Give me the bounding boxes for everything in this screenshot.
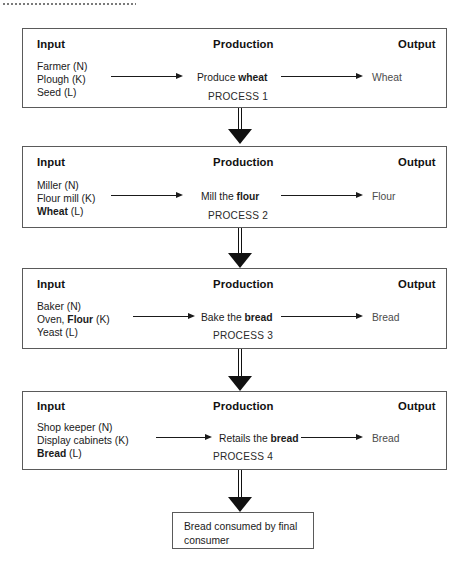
input-item: Oven, Flour (K) <box>37 313 110 326</box>
arrow-input-to-production-2 <box>111 192 183 200</box>
input-item: Miller (N) <box>37 179 95 192</box>
diagram-canvas: Input Production Output Farmer (N) Ploug… <box>0 0 468 572</box>
input-item: Wheat (L) <box>37 205 95 218</box>
input-item-rest: (L) <box>68 206 83 217</box>
input-item-pre: Oven, <box>37 314 67 325</box>
input-item-bold: Flour <box>67 314 93 325</box>
final-consumption-box: Bread consumed by final consumer <box>172 512 314 549</box>
column-header-input: Input <box>37 38 65 50</box>
input-list-4: Shop keeper (N) Display cabinets (K) Bre… <box>37 421 129 461</box>
input-item-rest: (L) <box>66 448 81 459</box>
final-consumption-text: Bread consumed by final consumer <box>184 520 306 548</box>
column-header-output: Output <box>398 38 436 50</box>
production-text-bold: wheat <box>238 72 267 83</box>
arrow-production-to-output-3 <box>281 313 363 321</box>
input-list-3: Baker (N) Oven, Flour (K) Yeast (L) <box>37 300 110 340</box>
column-header-production: Production <box>213 38 274 50</box>
connector-4-to-final <box>228 470 252 512</box>
arrow-input-to-production-3 <box>133 313 195 321</box>
production-text-bold: bread <box>245 312 273 323</box>
production-text: Retails the <box>219 433 271 444</box>
column-header-input: Input <box>37 278 65 290</box>
process-box-3: Input Production Output Baker (N) Oven, … <box>22 268 447 349</box>
input-item: Plough (K) <box>37 73 87 86</box>
arrow-input-to-production-1 <box>111 73 183 81</box>
input-item: Baker (N) <box>37 300 110 313</box>
production-text: Mill the <box>201 191 236 202</box>
process-tag-4: PROCESS 4 <box>213 451 273 462</box>
input-list-1: Farmer (N) Plough (K) Seed (L) <box>37 60 87 100</box>
input-item: Shop keeper (N) <box>37 421 129 434</box>
arrow-production-to-output-2 <box>281 192 363 200</box>
process-box-2: Input Production Output Miller (N) Flour… <box>22 146 447 228</box>
production-text: Bake the <box>201 312 245 323</box>
output-label-1: Wheat <box>372 72 402 83</box>
arrow-input-to-production-4 <box>156 434 212 442</box>
process-tag-2: PROCESS 2 <box>208 210 268 221</box>
input-item-bold: Bread <box>37 448 66 459</box>
arrow-production-to-output-4 <box>301 434 363 442</box>
input-item: Farmer (N) <box>37 60 87 73</box>
production-label-3: Bake the bread <box>201 312 273 323</box>
column-header-production: Production <box>213 156 274 168</box>
input-item: Display cabinets (K) <box>37 434 129 447</box>
column-header-production: Production <box>213 278 274 290</box>
column-header-production: Production <box>213 400 274 412</box>
process-tag-3: PROCESS 3 <box>213 330 273 341</box>
input-item: Yeast (L) <box>37 326 110 339</box>
column-header-output: Output <box>398 278 436 290</box>
production-text-bold: bread <box>271 433 299 444</box>
output-label-4: Bread <box>372 433 399 444</box>
connector-3-to-4 <box>228 349 252 391</box>
column-header-input: Input <box>37 400 65 412</box>
input-item-bold: Wheat <box>37 206 68 217</box>
process-box-4: Input Production Output Shop keeper (N) … <box>22 391 447 470</box>
input-item-rest: (K) <box>93 314 110 325</box>
column-header-output: Output <box>398 156 436 168</box>
connector-1-to-2 <box>228 108 252 144</box>
input-list-2: Miller (N) Flour mill (K) Wheat (L) <box>37 179 95 219</box>
input-item: Seed (L) <box>37 86 87 99</box>
production-label-1: Produce wheat <box>197 72 267 83</box>
arrow-production-to-output-1 <box>281 73 363 81</box>
dotted-rule-icon <box>2 3 136 5</box>
column-header-output: Output <box>398 400 436 412</box>
input-item: Bread (L) <box>37 447 129 460</box>
production-text: Produce <box>197 72 238 83</box>
production-label-2: Mill the flour <box>201 191 259 202</box>
output-label-2: Flour <box>372 191 395 202</box>
column-header-input: Input <box>37 156 65 168</box>
process-tag-1: PROCESS 1 <box>208 91 268 102</box>
connector-2-to-3 <box>228 228 252 268</box>
input-item: Flour mill (K) <box>37 192 95 205</box>
production-text-bold: flour <box>236 191 259 202</box>
process-box-1: Input Production Output Farmer (N) Ploug… <box>22 28 447 108</box>
output-label-3: Bread <box>372 312 399 323</box>
production-label-4: Retails the bread <box>219 433 299 444</box>
